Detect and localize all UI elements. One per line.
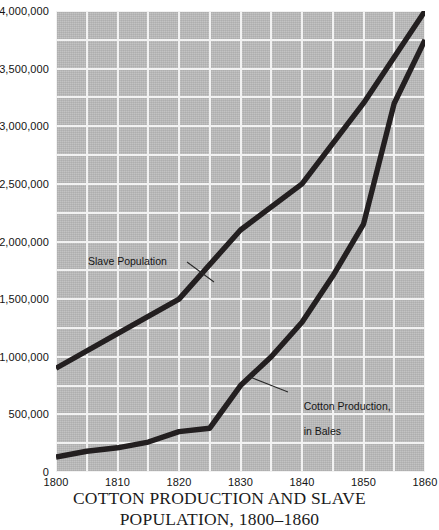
x-axis-tick-label: 1860 [413,476,438,488]
annotation-cotton-line1: Cotton Production, [304,400,391,412]
x-axis-tick-label: 1810 [105,476,130,488]
x-axis-tick-label: 1850 [351,476,376,488]
x-axis-tick-label: 1830 [228,476,253,488]
caption-line-2: POPULATION, 1800–1860 [0,509,439,530]
annotation-slave-population: Slave Population [88,255,167,268]
x-axis-tick-label: 1800 [44,476,69,488]
chart-caption: COTTON PRODUCTION AND SLAVE POPULATION, … [0,488,439,530]
annotation-cotton-line2: in Bales [304,425,341,437]
caption-line-1: COTTON PRODUCTION AND SLAVE [73,488,366,508]
x-axis-tick-label: 1840 [290,476,315,488]
x-axis-tick-label: 1820 [167,476,192,488]
annotation-cotton-production: Cotton Production, in Bales [292,387,391,450]
